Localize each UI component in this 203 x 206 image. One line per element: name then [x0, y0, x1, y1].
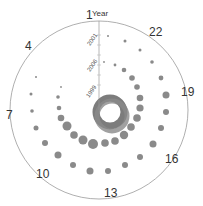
hour-label-10: 10 — [36, 167, 50, 181]
inner-ring-bubbles — [96, 98, 127, 131]
year-label-middle: 2006 — [86, 58, 99, 73]
hour-label-1: 1 — [86, 8, 93, 22]
hour-label-19: 19 — [181, 85, 195, 99]
year-label-inner: 1999 — [85, 84, 98, 99]
year-label-outer: 2001 — [86, 32, 99, 47]
polar-bubble-chart: 2001 2006 1999 Year 1 4 7 10 13 16 19 22 — [0, 0, 203, 206]
hour-label-4: 4 — [25, 39, 32, 53]
hour-label-16: 16 — [165, 152, 179, 166]
hour-label-7: 7 — [6, 108, 13, 122]
hour-label-13: 13 — [104, 186, 118, 200]
hour-label-22: 22 — [149, 25, 163, 39]
radial-axis-title: Year — [92, 9, 109, 18]
